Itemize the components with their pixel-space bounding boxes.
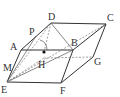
edge-EF (7, 82, 61, 83)
angle-arc-mark (40, 40, 47, 50)
label-H: H (38, 59, 45, 70)
label-D: D (48, 11, 55, 22)
point-H-dot (42, 50, 45, 53)
label-B: B (71, 37, 78, 48)
label-E: E (1, 84, 7, 95)
edge-DC (51, 23, 106, 24)
label-F: F (60, 85, 66, 96)
parallelepiped-diagram: D C P A B H M G E F (0, 0, 120, 97)
edge-DB (51, 23, 73, 50)
label-A: A (10, 41, 18, 52)
dashed-HG (44, 57, 93, 58)
label-G: G (94, 56, 101, 67)
label-M: M (3, 62, 12, 73)
label-C: C (107, 12, 114, 23)
dashed-EC (7, 24, 106, 82)
label-P: P (29, 26, 35, 37)
